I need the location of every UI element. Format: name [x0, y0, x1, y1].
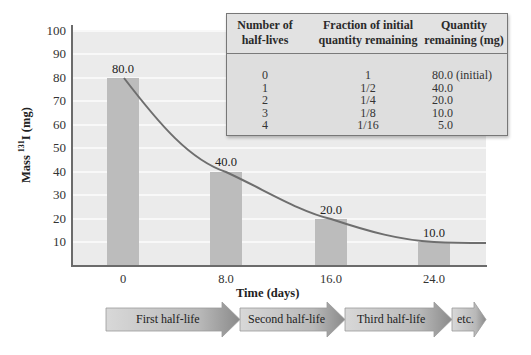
timeline-arrows-graphic — [0, 0, 531, 355]
timeline-label: etc. — [457, 312, 474, 327]
timeline-segment-second: Second half-life — [240, 303, 345, 337]
timeline-segment-etc: etc. — [452, 303, 486, 337]
timeline-segment-third: Third half-life — [345, 303, 452, 337]
timeline-label: Second half-life — [248, 312, 325, 327]
timeline-segment-first: First half-life — [106, 303, 240, 337]
timeline-label: Third half-life — [357, 312, 425, 327]
timeline-label: First half-life — [136, 312, 200, 327]
